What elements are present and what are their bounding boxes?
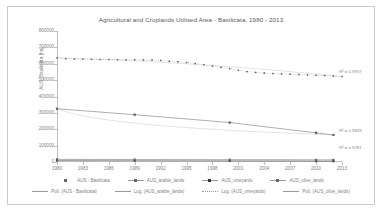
legend-key-icon xyxy=(283,189,299,195)
r2-annotation: R² = 0.9781 xyxy=(339,145,362,150)
legend-item[interactable]: Poli. (AUS_olive_lands) xyxy=(283,189,349,195)
x-tick-label: 1989 xyxy=(122,166,148,171)
data-point xyxy=(315,132,317,134)
legend-line xyxy=(115,191,131,193)
data-point xyxy=(307,74,309,76)
r2-annotation: R² = 0.9849 xyxy=(339,128,362,133)
legend-marker xyxy=(134,179,137,182)
legend-item[interactable]: Poli. (AUS - Basilicata) xyxy=(32,189,97,195)
legend-row-primary: AUS - BasilicataAUS_arable_landsAUS_vine… xyxy=(7,175,375,186)
legend-row-trendlines: Poli. (AUS - Basilicata)Log. (AUS_arable… xyxy=(7,186,375,197)
chart-legend: AUS - BasilicataAUS_arable_landsAUS_vine… xyxy=(7,175,375,197)
legend-key-icon xyxy=(128,178,144,184)
legend-label: AUS_arable_lands xyxy=(147,178,185,183)
y-tick-label: 300000 xyxy=(22,110,54,115)
chart-title: Agricultural and Croplands Utilised Area… xyxy=(0,16,382,23)
legend-marker xyxy=(276,179,279,182)
legend-item[interactable]: AUS - Basilicata xyxy=(58,178,110,184)
legend-item[interactable]: AUS_arable_lands xyxy=(128,178,185,184)
x-tick-mark xyxy=(83,162,84,165)
legend-key-icon xyxy=(115,189,131,195)
legend-item[interactable]: AUS_olive_lands xyxy=(270,178,323,184)
y-tick-label: 0 xyxy=(22,159,54,164)
data-point xyxy=(143,59,145,61)
legend-key-icon xyxy=(270,178,286,184)
chart-screenshot: Agricultural and Croplands Utilised Area… xyxy=(0,0,382,211)
x-tick-label: 1983 xyxy=(70,166,96,171)
data-point xyxy=(186,62,188,64)
x-tick-label: 2010 xyxy=(303,166,329,171)
data-point xyxy=(160,60,162,62)
data-point xyxy=(220,67,222,69)
x-tick-label: 2007 xyxy=(277,166,303,171)
data-point xyxy=(255,72,257,74)
x-tick-mark xyxy=(238,162,239,165)
y-tick-label: 500000 xyxy=(22,77,54,82)
trendline-1 xyxy=(57,109,333,135)
data-point xyxy=(281,73,283,75)
y-tick-label: 400000 xyxy=(22,94,54,99)
x-tick-mark xyxy=(161,162,162,165)
legend-label: AUS_olive_lands xyxy=(289,178,323,183)
legend-label: Poli. (AUS_olive_lands) xyxy=(302,189,349,194)
x-tick-mark xyxy=(342,162,343,165)
x-tick-label: 1995 xyxy=(174,166,200,171)
legend-key-icon xyxy=(202,178,218,184)
data-point xyxy=(134,114,136,116)
r2-annotation: R² = 0.9937 xyxy=(339,69,362,74)
x-tick-mark xyxy=(187,162,188,165)
data-point xyxy=(169,61,171,63)
legend-item[interactable]: Log. (AUS_arable_lands) xyxy=(115,189,185,195)
y-tick-label: 600000 xyxy=(22,61,54,66)
data-point xyxy=(315,74,317,76)
data-point xyxy=(229,68,231,70)
legend-marker xyxy=(208,179,211,182)
series-line-0 xyxy=(57,58,342,77)
x-tick-mark xyxy=(212,162,213,165)
x-tick-label: 2013 xyxy=(329,166,355,171)
x-tick-label: 2004 xyxy=(251,166,277,171)
legend-item[interactable]: Log. (AUS_vineyards) xyxy=(202,189,265,195)
data-point xyxy=(177,61,179,63)
legend-key-icon xyxy=(32,189,48,195)
x-tick-mark xyxy=(290,162,291,165)
data-point xyxy=(134,59,136,61)
y-tick-label: 700000 xyxy=(22,44,54,49)
data-point xyxy=(151,59,153,61)
trendline-0 xyxy=(57,58,342,77)
x-tick-label: 2001 xyxy=(225,166,251,171)
y-tick-label: 200000 xyxy=(22,126,54,131)
x-tick-mark xyxy=(264,162,265,165)
x-tick-mark xyxy=(316,162,317,165)
legend-key-icon xyxy=(58,178,74,184)
data-point xyxy=(108,59,110,61)
legend-line xyxy=(32,191,48,193)
data-point xyxy=(298,74,300,76)
data-point xyxy=(91,59,93,61)
legend-label: Log. (AUS_vineyards) xyxy=(221,189,265,194)
legend-line xyxy=(202,191,218,193)
x-tick-label: 1992 xyxy=(148,166,174,171)
x-tick-mark xyxy=(109,162,110,165)
data-point xyxy=(246,71,248,73)
data-point xyxy=(272,73,274,75)
legend-key-icon xyxy=(202,189,218,195)
x-tick-mark xyxy=(57,162,58,165)
x-tick-label: 1986 xyxy=(96,166,122,171)
data-point xyxy=(289,73,291,75)
legend-label: AUS - Basilicata xyxy=(77,178,110,183)
data-series-layer xyxy=(57,31,342,162)
y-tick-label: 800000 xyxy=(22,28,54,33)
legend-line xyxy=(283,191,299,193)
x-tick-label: 1980 xyxy=(44,166,70,171)
legend-label: Log. (AUS_arable_lands) xyxy=(134,189,185,194)
legend-label: Poli. (AUS - Basilicata) xyxy=(51,189,97,194)
data-point xyxy=(229,121,231,123)
legend-label: AUS_vineyards xyxy=(221,178,252,183)
y-tick-label: 100000 xyxy=(22,143,54,148)
legend-marker xyxy=(64,179,67,182)
data-point xyxy=(264,72,266,74)
x-tick-label: 1998 xyxy=(199,166,225,171)
legend-item[interactable]: AUS_vineyards xyxy=(202,178,252,184)
x-tick-mark xyxy=(135,162,136,165)
